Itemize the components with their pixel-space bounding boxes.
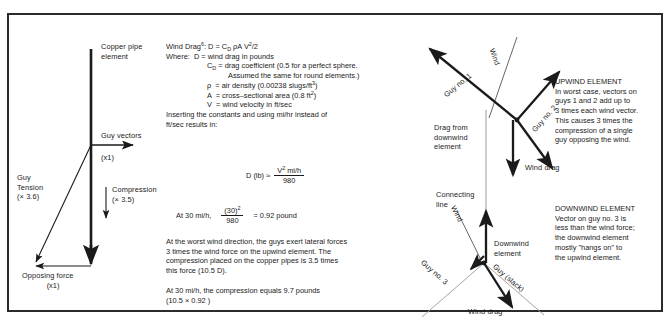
downwind-note: DOWNWIND ELEMENT Vector on guy no. 3 is …	[555, 204, 665, 262]
copper-pipe-label: Copper pipe element	[101, 42, 142, 61]
equation-drag-denominator: 980	[274, 175, 304, 185]
equation-30mph: At 30 mi/h, (30)2 980 = 0.92 pound	[176, 206, 297, 225]
worst-wind-paragraph: At the worst wind direction, the guys ex…	[166, 237, 416, 276]
formula-line-8: Inserting the constants and using mi/hr …	[166, 110, 416, 120]
formula-line-9: ft/sec results in:	[166, 120, 416, 130]
guy-tension-arrow	[36, 145, 91, 262]
left-force-diagram	[9, 15, 189, 312]
downwind-note-body: Vector on guy no. 3 is less than the win…	[555, 214, 665, 263]
formula-line-6: A = cross–sectional area (0.8 ft2)	[166, 91, 416, 101]
equation-drag-fraction: V2 mi/h 980	[274, 166, 304, 185]
downwind-note-title: DOWNWIND ELEMENT	[555, 204, 665, 214]
formula-line-1: Wind Drag6: D = CD ρA V2/2	[166, 42, 416, 52]
formula-line-7: V = wind velocity in ft/sec	[166, 100, 416, 110]
equation-30mph-lhs: At 30 mi/h,	[176, 211, 211, 220]
equation-drag-numerator: V2 mi/h	[274, 166, 304, 175]
opposing-force-multiplier: (x1)	[22, 281, 84, 291]
compression-multiplier: (× 3.5)	[112, 195, 134, 205]
downwind-element-label: Downwind element	[494, 239, 529, 258]
downwind-hub	[482, 261, 487, 266]
equation-drag: D (lb) ≈ V2 mi/h 980	[246, 166, 304, 185]
upwind-note-body: In worst case, vectors on guys 1 and 2 a…	[555, 87, 665, 145]
formula-line-3: CD = drag coefficient (0.5 for a perfect…	[166, 61, 416, 71]
downwind-wind-drag-label: Wind drag	[468, 307, 503, 317]
upwind-note: UPWIND ELEMENT In worst case, vectors on…	[555, 77, 665, 145]
guy-vectors-multiplier: (x1)	[101, 153, 114, 163]
equation-30mph-numerator: (30)2	[221, 206, 243, 215]
figure-frame: Copper pipe element Guy vectors (x1) Guy…	[7, 13, 663, 312]
equation-30mph-rhs: = 0.92 pound	[253, 211, 296, 220]
equation-drag-lhs: D (lb) ≈	[246, 171, 270, 180]
compression-label: Compression	[112, 185, 157, 195]
formula-line-2: Where: D = wind drag in pounds	[166, 52, 416, 62]
opposing-force-label: Opposing force	[22, 271, 74, 281]
upwind-note-title: UPWIND ELEMENT	[555, 77, 665, 87]
wind-drag-formula-block: Wind Drag6: D = CD ρA V2/2 Where: D = wi…	[166, 42, 416, 129]
compression-result-paragraph: At 30 mi/h, the compression equals 9.7 p…	[166, 286, 416, 305]
equation-30mph-fraction: (30)2 980	[221, 206, 243, 225]
guy-vectors-label: Guy vectors	[101, 131, 142, 141]
equation-30mph-denominator: 980	[221, 215, 243, 225]
formula-line-4: Assumed the same for round elements.)	[166, 71, 416, 81]
guy-tension-label: Guy Tension (× 3.6)	[17, 173, 43, 202]
formula-line-5: ρ = air density (0.00238 slugs/ft3)	[166, 81, 416, 91]
